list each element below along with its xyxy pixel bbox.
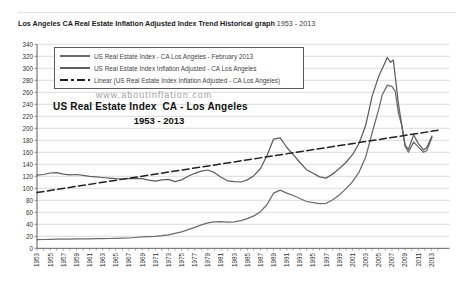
legend-item-label: US Real Estate Index Inflation Adjusted … xyxy=(94,65,256,72)
y-axis-label: 160 xyxy=(22,149,33,156)
legend-line-sample-icon xyxy=(60,67,90,69)
x-axis-label: 1977 xyxy=(191,253,198,268)
legend-line-sample-icon xyxy=(60,55,90,57)
y-axis-label: 80 xyxy=(26,197,34,204)
y-axis-label: 100 xyxy=(22,185,33,192)
x-axis-label: 2003 xyxy=(362,253,369,268)
legend-item-1: US Real Estate Index Inflation Adjusted … xyxy=(60,62,301,74)
y-axis-label: 200 xyxy=(22,125,33,132)
x-axis-label: 1981 xyxy=(217,253,224,268)
x-axis-label: 1955 xyxy=(47,253,54,268)
y-axis-label: 120 xyxy=(22,173,33,180)
x-axis-label: 2011 xyxy=(415,253,422,267)
legend-item-label: US Real Estate Index - CA Los Angeles - … xyxy=(94,53,253,60)
x-axis-label: 1989 xyxy=(270,253,277,268)
chart-page: Los Angeles CA Real Estate Inflation Adj… xyxy=(0,0,461,286)
y-axis-label: 240 xyxy=(22,101,33,108)
x-axis-label: 1983 xyxy=(231,253,238,268)
x-axis-label: 1953 xyxy=(33,253,40,268)
page-title-main: Los Angeles CA Real Estate Inflation Adj… xyxy=(18,19,275,28)
x-axis-label: 2001 xyxy=(349,253,356,268)
y-axis-label: 140 xyxy=(22,161,33,168)
chart-plot-area: 0204060801001201401601802002202402602803… xyxy=(0,0,461,286)
x-axis-label: 1961 xyxy=(86,253,93,268)
chart-title: US Real Estate Index CA - Los Angeles xyxy=(53,101,248,112)
y-axis-label: 220 xyxy=(22,113,33,120)
y-axis-label: 260 xyxy=(22,89,33,96)
x-axis-label: 1971 xyxy=(152,253,159,268)
page-title: Los Angeles CA Real Estate Inflation Adj… xyxy=(18,19,315,28)
legend-item-label: Linear (US Real Estate Index Inflation A… xyxy=(94,77,280,84)
y-axis-label: 20 xyxy=(26,233,34,240)
x-axis-label: 1993 xyxy=(296,253,303,268)
x-axis-label: 1965 xyxy=(112,253,119,268)
x-axis-label: 1997 xyxy=(323,253,330,268)
x-axis-label: 1991 xyxy=(283,253,290,268)
x-axis-label: 1963 xyxy=(99,253,106,268)
legend-line-sample-icon xyxy=(60,79,90,81)
y-axis-label: 340 xyxy=(22,41,33,48)
y-axis-label: 280 xyxy=(22,77,33,84)
y-axis-label: 320 xyxy=(22,53,33,60)
x-axis-label: 1999 xyxy=(336,253,343,268)
x-axis-label: 2007 xyxy=(388,253,395,268)
y-axis-label: 300 xyxy=(22,65,33,72)
x-axis-label: 1975 xyxy=(178,253,185,268)
x-axis-label: 2009 xyxy=(401,253,408,268)
y-axis-label: 0 xyxy=(29,245,33,252)
x-axis-label: 1979 xyxy=(204,253,211,268)
legend-item-0: US Real Estate Index - CA Los Angeles - … xyxy=(60,50,301,62)
x-axis-label: 1987 xyxy=(257,253,264,268)
x-axis-label: 1995 xyxy=(309,253,316,268)
y-axis-label: 40 xyxy=(26,221,34,228)
x-axis-label: 1959 xyxy=(73,253,80,268)
x-axis-label: 1967 xyxy=(125,253,132,268)
legend: US Real Estate Index - CA Los Angeles - … xyxy=(54,47,304,89)
x-axis-label: 2013 xyxy=(428,253,435,268)
x-axis-label: 2005 xyxy=(375,253,382,268)
x-axis-label: 1973 xyxy=(165,253,172,268)
y-axis-label: 60 xyxy=(26,209,34,216)
legend-item-2: Linear (US Real Estate Index Inflation A… xyxy=(60,74,301,86)
y-axis-label: 180 xyxy=(22,137,33,144)
trend-line xyxy=(37,130,438,192)
x-axis-label: 1957 xyxy=(60,253,67,268)
page-title-range: 1953 - 2013 xyxy=(275,19,315,28)
watermark: www.aboutinflation.com xyxy=(54,90,254,100)
chart-subtitle: 1953 - 2013 xyxy=(53,115,265,126)
x-axis-label: 1969 xyxy=(139,253,146,268)
x-axis-label: 1985 xyxy=(244,253,251,268)
